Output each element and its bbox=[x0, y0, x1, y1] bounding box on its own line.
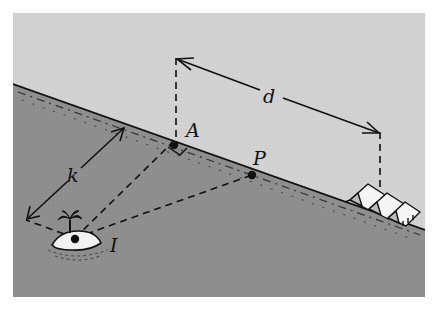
label-d: d bbox=[263, 85, 275, 107]
label-A: A bbox=[184, 119, 200, 141]
point-P bbox=[248, 171, 256, 179]
label-P: P bbox=[252, 147, 267, 169]
island-shore-diagram: k d A P I bbox=[0, 0, 433, 309]
label-k: k bbox=[67, 164, 79, 186]
point-A bbox=[170, 141, 178, 149]
label-I: I bbox=[109, 234, 118, 256]
point-I bbox=[71, 235, 79, 243]
